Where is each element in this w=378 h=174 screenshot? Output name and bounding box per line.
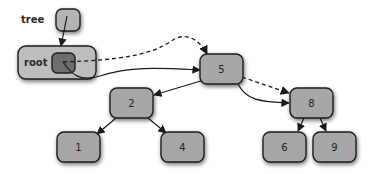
tree-label: tree bbox=[21, 14, 44, 25]
node-value: 2 bbox=[128, 98, 134, 109]
tree-node: 6 bbox=[263, 132, 306, 162]
edge-2-1 bbox=[97, 118, 116, 134]
root-label: root bbox=[24, 57, 48, 68]
node-value: 5 bbox=[218, 64, 224, 75]
node-value: 9 bbox=[331, 142, 337, 153]
node-value: 8 bbox=[308, 98, 314, 109]
node-value: 6 bbox=[281, 142, 287, 153]
tree-pointer-box bbox=[56, 9, 80, 31]
edge-8-9 bbox=[320, 118, 326, 131]
node-value: 4 bbox=[179, 142, 185, 153]
edge-8-6 bbox=[298, 118, 304, 131]
tree-diagram: tree root 5 2 8 1 4 6 9 bbox=[0, 0, 378, 174]
edge-2-4 bbox=[148, 118, 166, 133]
tree-node: 9 bbox=[313, 132, 356, 162]
tree-node: 1 bbox=[57, 132, 100, 162]
tree-node: 2 bbox=[110, 88, 153, 118]
tree-node: 4 bbox=[161, 132, 204, 162]
node-value: 1 bbox=[75, 142, 81, 153]
tree-node: 5 bbox=[200, 54, 243, 84]
edge-5-8 bbox=[238, 84, 289, 103]
tree-node: 8 bbox=[290, 88, 333, 118]
edge-5-2 bbox=[154, 80, 204, 95]
edge-5-8-dashed bbox=[242, 77, 289, 93]
